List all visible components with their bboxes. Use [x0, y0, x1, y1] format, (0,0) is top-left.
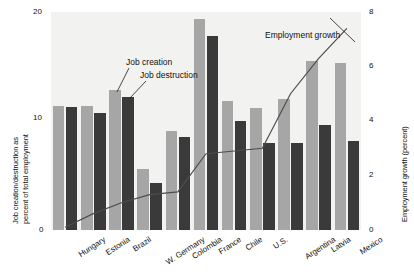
- annotation-job-creation: Job creation: [126, 57, 172, 67]
- leader-job-destruction: [130, 81, 146, 98]
- leader-job-creation: [117, 68, 129, 92]
- annotation-job-destruction: Job destruction: [140, 70, 198, 80]
- employment-growth-line: [65, 28, 347, 227]
- annotation-employment-growth: Employment growth: [265, 30, 340, 40]
- line-and-leader-overlay: [0, 0, 414, 279]
- chart-container: Job creation/destruction as percent of t…: [0, 0, 414, 279]
